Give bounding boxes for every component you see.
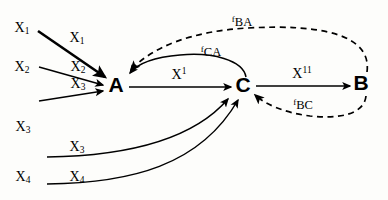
edge-f-ca-c-to-a: [130, 54, 246, 77]
edge-label-x3-to-c: X3: [70, 139, 85, 155]
edge-label-x3-to-a: X3: [71, 76, 86, 92]
edge-label-x1: X1: [70, 30, 85, 46]
source-x2: X2: [15, 59, 30, 75]
source-x3: X3: [16, 119, 31, 135]
edge-label-x4-to-c: X4: [70, 169, 85, 185]
edge-label-x11-superscript: X11: [292, 65, 312, 81]
node-a: A: [108, 73, 123, 96]
edge-label-x1-superscript: X1: [172, 66, 187, 82]
node-c: C: [235, 73, 250, 96]
edge-f-ba-b-to-a: [131, 27, 367, 72]
feedback-label-f-ca: fCA: [201, 44, 221, 59]
node-b: B: [353, 71, 368, 94]
diagram-canvas: A C B X1 X2 X3 X4 X1 X2 X3 X1 X11: [0, 0, 388, 200]
edge-x3-to-a: [39, 91, 103, 101]
source-x1: X1: [15, 20, 30, 36]
source-x4: X4: [16, 169, 31, 185]
feedback-label-f-bc: fBC: [293, 97, 313, 112]
feedback-label-f-ba: fBA: [232, 14, 252, 29]
signal-flow-diagram: A C B X1 X2 X3 X4 X1 X2 X3 X1 X11: [0, 0, 388, 200]
